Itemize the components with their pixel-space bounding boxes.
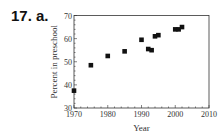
plot-frame	[74, 16, 209, 109]
x-tick-label: 2000	[167, 110, 183, 119]
y-tick-label: 60	[64, 35, 72, 44]
data-point	[72, 88, 77, 93]
data-point	[105, 54, 110, 59]
data-point	[156, 33, 161, 38]
data-point	[149, 48, 154, 53]
data-point	[122, 49, 127, 54]
data-point	[139, 37, 144, 42]
scatter-plot: 197019801990200020103040506070YearPercen…	[0, 0, 223, 138]
y-tick-label: 70	[64, 12, 72, 21]
y-tick-label: 40	[64, 81, 72, 90]
y-axis-label: Percent in preschool	[49, 25, 59, 99]
data-point	[180, 25, 185, 30]
y-tick-label: 30	[64, 104, 72, 113]
y-tick-label: 50	[64, 58, 72, 67]
x-tick-label: 1990	[134, 110, 150, 119]
data-point	[89, 63, 94, 68]
x-axis-label: Year	[133, 123, 150, 133]
x-tick-label: 1980	[100, 110, 116, 119]
x-tick-label: 2010	[201, 110, 217, 119]
